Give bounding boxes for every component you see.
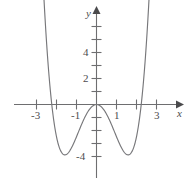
plot-canvas — [0, 0, 194, 181]
x-tick-label-pos3: 3 — [154, 110, 160, 121]
y-tick-label-neg4: -4 — [76, 151, 85, 162]
x-tick-label-pos1: 1 — [114, 110, 120, 121]
x-tick-label-neg3: -3 — [31, 110, 40, 121]
y-axis-label: y — [86, 8, 91, 19]
x-axis-label: x — [177, 108, 182, 119]
y-tick-label-pos4: 4 — [83, 47, 89, 58]
x-tick-label-neg1: -1 — [71, 110, 80, 121]
y-tick-label-pos2: 2 — [83, 73, 89, 84]
y-axis-arrow-icon — [93, 6, 101, 14]
function-graph-figure: -3 -1 1 3 2 4 -4 y x — [0, 0, 194, 181]
